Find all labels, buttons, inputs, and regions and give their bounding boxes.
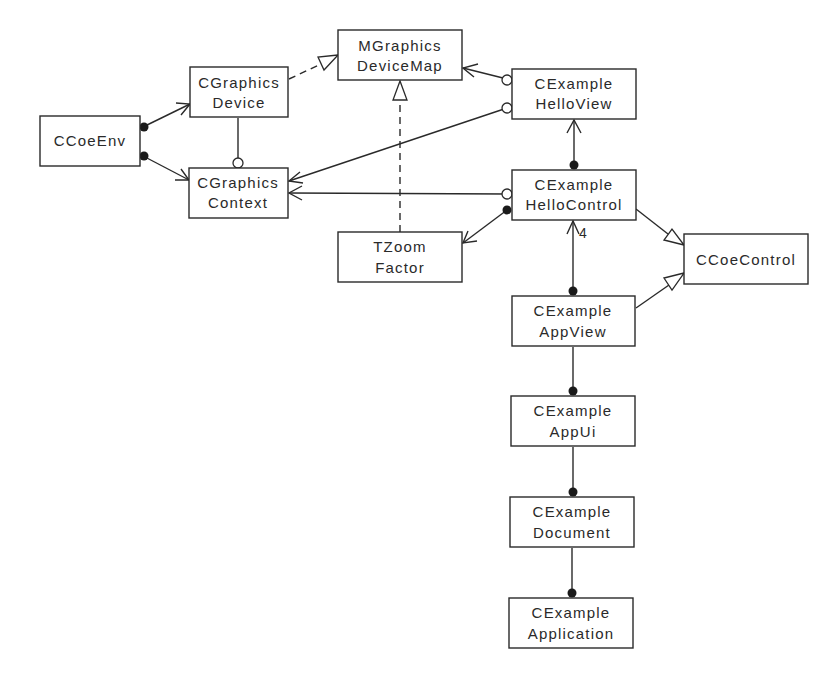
realization-triangle-icon	[318, 55, 338, 70]
inheritance-triangle-icon	[664, 273, 684, 290]
edge-cgraphicsdevice-realizes-mgraphicsdevicemap	[289, 55, 338, 79]
class-name-line-2: HelloControl	[526, 196, 623, 213]
class-box-cexampleapplication: CExample Application	[509, 598, 633, 648]
class-name-line-1: CExample	[534, 402, 613, 419]
edge-cexampleappview-inherits-ccoecontrol	[636, 273, 684, 308]
class-name-line-2: Context	[208, 194, 268, 211]
class-box-cgraphicscontext: CGraphics Context	[189, 168, 288, 218]
composition-dot-icon	[503, 206, 512, 215]
class-box-ccoecontrol: CCoeControl	[684, 234, 808, 284]
inheritance-triangle-icon	[664, 229, 684, 245]
class-box-tzoomfactor: TZoom Factor	[338, 232, 462, 282]
edge-cexamplehelloview-to-mgraphicsdevicemap	[463, 64, 512, 85]
class-name-line-1: TZoom	[373, 238, 427, 255]
edge-cexamplehellocontrol-to-tzoomfactor	[463, 206, 512, 244]
class-name-line-1: CExample	[534, 302, 613, 319]
edge-ccoeenv-to-cgraphicscontext	[140, 152, 190, 181]
class-name-line-1: CExample	[532, 604, 611, 621]
class-box-cexamplehellocontrol: CExample HelloControl	[512, 170, 636, 220]
class-name-line-1: CGraphics	[198, 74, 280, 91]
class-name-line-2: AppUi	[550, 423, 597, 440]
class-box-cexampledocument: CExample Document	[510, 497, 634, 547]
class-name: CCoeEnv	[54, 132, 127, 149]
class-name-line-1: CExample	[535, 75, 614, 92]
composition-dot-icon	[140, 152, 149, 161]
uml-class-diagram: 4 CCoeEnv CGraphics Device CGraphics Con…	[0, 0, 834, 682]
class-box-mgraphicsdevicemap: MGraphics DeviceMap	[338, 30, 462, 80]
class-name-line-2: DeviceMap	[357, 57, 443, 74]
edge-cexamplehellocontrol-to-cexamplehelloview	[567, 120, 581, 170]
edge-cexampledocument-to-cexampleappui	[569, 447, 578, 497]
composition-dot-icon	[140, 123, 149, 132]
multiplicity-label: 4	[579, 225, 587, 241]
class-box-cexampleappui: CExample AppUi	[511, 396, 635, 446]
class-name: CCoeControl	[696, 251, 796, 268]
edge-cexampleappui-to-cexampleappview	[569, 347, 578, 396]
class-box-cgraphicsdevice: CGraphics Device	[190, 67, 288, 117]
composition-dot-icon	[568, 589, 577, 598]
usage-circle-icon	[233, 158, 243, 168]
composition-dot-icon	[570, 161, 579, 170]
class-box-cexampleappview: CExample AppView	[512, 296, 635, 346]
edge-cexamplehellocontrol-to-cgraphicscontext	[289, 186, 512, 200]
realization-triangle-icon	[393, 81, 407, 100]
usage-circle-icon	[502, 189, 512, 199]
usage-circle-icon	[502, 75, 512, 85]
class-name-line-2: AppView	[539, 323, 606, 340]
composition-dot-icon	[569, 387, 578, 396]
edge-cgraphicsdevice-to-cgraphicscontext	[233, 118, 243, 168]
class-name-line-1: CExample	[533, 503, 612, 520]
class-name-line-1: CGraphics	[197, 174, 279, 191]
class-name-line-2: Document	[533, 524, 611, 541]
class-box-cexamplehelloview: CExample HelloView	[512, 69, 636, 119]
usage-circle-icon	[502, 103, 512, 113]
edge-tzoomfactor-realizes-mgraphicsdevicemap	[393, 81, 407, 232]
edge-cexampleappview-to-cexamplehellocontrol: 4	[567, 221, 587, 296]
class-name-line-2: HelloView	[535, 95, 612, 112]
class-name-line-1: CExample	[535, 176, 614, 193]
class-name-line-2: Application	[528, 625, 615, 642]
class-box-ccoeenv: CCoeEnv	[40, 116, 140, 166]
edge-cexampleapplication-to-cexampledocument	[568, 548, 577, 598]
class-name-line-2: Device	[212, 94, 265, 111]
composition-dot-icon	[569, 488, 578, 497]
class-name-line-1: MGraphics	[358, 37, 441, 54]
composition-dot-icon	[569, 287, 578, 296]
edge-cexamplehellocontrol-inherits-ccoecontrol	[636, 209, 684, 245]
edge-ccoeenv-to-cgraphicsdevice	[140, 103, 191, 132]
class-name-line-2: Factor	[375, 259, 425, 276]
